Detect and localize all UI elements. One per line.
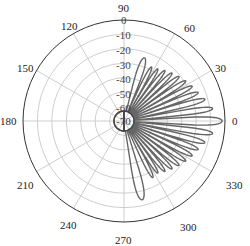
angle-label-60: 60 [184,22,196,34]
polar-chart: 0 30 60 90 120 150 180 210 240 270 300 3… [0,0,250,246]
angle-label-120: 120 [61,20,78,32]
angle-label-330: 330 [226,179,243,191]
angle-label-210: 210 [17,179,34,191]
radial-label-70: -70 [116,115,131,127]
radial-label-40: -40 [116,73,131,85]
angle-label-150: 150 [17,62,34,74]
angle-label-0: 0 [232,115,238,127]
radial-label-30: -30 [116,59,131,71]
radial-label-20: -20 [116,44,131,56]
angle-label-180: 180 [0,115,17,127]
radial-label-50: -50 [116,88,131,100]
angle-label-270: 270 [115,234,132,246]
angle-label-30: 30 [215,62,227,74]
radial-label-60: -60 [116,102,131,114]
angle-label-240: 240 [60,219,77,231]
radial-label-0: 0 [121,14,127,26]
angle-label-90: 90 [118,2,130,14]
radial-label-10: -10 [116,29,131,41]
angle-label-300: 300 [180,221,197,233]
